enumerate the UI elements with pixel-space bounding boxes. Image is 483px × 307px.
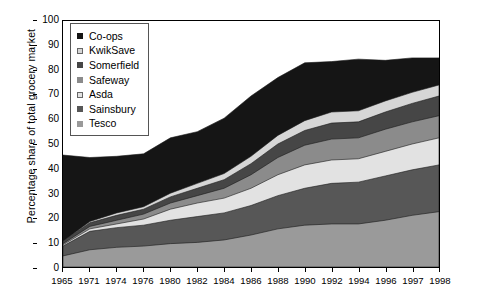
x-axis-tick-mark (332, 268, 333, 272)
legend-item-label: KwikSave (89, 45, 135, 56)
legend-swatch-icon (77, 106, 83, 112)
x-axis-tick-mark (62, 268, 63, 272)
x-axis-tick-label: 1965 (51, 276, 72, 286)
x-axis-tick-mark (278, 268, 279, 272)
x-axis-tick-label: 1980 (159, 276, 180, 286)
legend-item-tesco: Tesco (77, 117, 139, 132)
legend-swatch-icon (77, 92, 83, 98)
legend-item-somerfield: Somerfield (77, 58, 139, 73)
legend-item-kwiksave: KwikSave (77, 44, 139, 59)
x-axis-tick-label: 1982 (186, 276, 207, 286)
x-axis-tick-label: 1992 (321, 276, 342, 286)
legend-item-label: Co-ops (89, 31, 123, 42)
legend-swatch-icon (77, 62, 83, 68)
x-axis-tick-label: 1990 (294, 276, 315, 286)
y-axis-tick-mark (33, 218, 37, 219)
y-axis-tick-mark (33, 119, 37, 120)
x-axis-tick-label: 1994 (348, 276, 369, 286)
chart-figure: Percentage share of total grocery market… (0, 0, 483, 307)
legend-swatch-icon (77, 33, 83, 39)
legend-item-sainsbury: Sainsbury (77, 102, 139, 117)
x-axis-tick-label: 1986 (240, 276, 261, 286)
y-axis-tick-mark (33, 45, 37, 46)
legend-item-label: Tesco (89, 118, 116, 129)
legend-item-co-ops: Co-ops (77, 29, 139, 44)
legend-item-safeway: Safeway (77, 73, 139, 88)
x-axis-tick-mark (197, 268, 198, 272)
x-axis-tick-mark (413, 268, 414, 272)
x-axis-tick-mark (305, 268, 306, 272)
x-axis-tick-label: 1976 (132, 276, 153, 286)
y-axis-tick-mark (33, 70, 37, 71)
legend-item-label: Safeway (89, 75, 129, 86)
legend-swatch-icon (77, 77, 83, 83)
y-axis-tick-mark (33, 268, 37, 269)
x-axis-tick-label: 1998 (429, 276, 450, 286)
x-axis-tick-mark (386, 268, 387, 272)
x-axis-tick-mark (116, 268, 117, 272)
y-axis-tick-mark (33, 144, 37, 145)
legend-item-label: Sainsbury (89, 104, 136, 115)
x-axis-tick-mark (359, 268, 360, 272)
y-axis-tick-mark (33, 194, 37, 195)
chart-legend: Co-opsKwikSaveSomerfieldSafewayAsdaSains… (70, 23, 149, 136)
x-axis-tick-mark (143, 268, 144, 272)
x-axis-tick-mark (251, 268, 252, 272)
y-axis-tick-mark (33, 94, 37, 95)
legend-swatch-icon (77, 121, 83, 127)
legend-item-asda: Asda (77, 87, 139, 102)
x-axis-tick-mark (170, 268, 171, 272)
x-axis-tick-label: 1984 (213, 276, 234, 286)
y-axis-tick-mark (33, 243, 37, 244)
x-axis-tick-mark (439, 268, 440, 272)
x-axis-tick-mark (224, 268, 225, 272)
y-axis-tick-mark (33, 169, 37, 170)
legend-swatch-icon (77, 48, 83, 54)
x-axis-tick-label: 1997 (402, 276, 423, 286)
y-axis-tick-mark (33, 20, 37, 21)
x-axis-tick-label: 1996 (375, 276, 396, 286)
legend-item-label: Somerfield (89, 60, 139, 71)
x-axis-tick-labels: 1965197119741976198019821984198619881990… (62, 268, 440, 298)
x-axis-tick-label: 1974 (105, 276, 126, 286)
x-axis-tick-mark (89, 268, 90, 272)
x-axis-tick-label: 1971 (78, 276, 99, 286)
legend-item-label: Asda (89, 89, 113, 100)
x-axis-tick-label: 1988 (267, 276, 288, 286)
